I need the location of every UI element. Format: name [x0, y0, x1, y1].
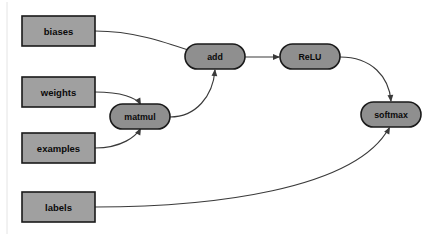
node-label: softmax [374, 110, 408, 120]
node-biases[interactable]: biases [22, 16, 95, 46]
edge-line [95, 92, 140, 104]
node-examples[interactable]: examples [22, 133, 95, 163]
arrowhead-icon [388, 95, 394, 102]
node-matmul[interactable]: matmul [110, 104, 170, 129]
diagram-canvas: biasesweightsexampleslabelsmatmuladdReLU… [0, 0, 439, 236]
edge-line [340, 57, 391, 101]
edge-relu-to-softmax [340, 57, 394, 102]
edge-labels-to-softmax [95, 126, 393, 207]
arrowhead-icon [212, 69, 218, 76]
edge-examples-to-matmul [95, 127, 144, 148]
node-label: biases [44, 26, 74, 37]
node-add[interactable]: add [185, 44, 245, 69]
node-label: add [207, 52, 223, 62]
node-labels[interactable]: labels [22, 192, 95, 222]
edge-add-to-relu [245, 54, 280, 60]
node-label: labels [45, 202, 72, 213]
edge-matmul-to-add [170, 69, 218, 117]
arrowhead-icon [273, 54, 280, 60]
dataflow-graph: biasesweightsexampleslabelsmatmuladdReLU… [0, 0, 439, 236]
node-label: matmul [124, 112, 155, 122]
node-relu[interactable]: ReLU [280, 44, 340, 69]
edge-line [95, 128, 389, 207]
node-label: weights [40, 87, 76, 98]
edge-line [95, 129, 140, 148]
node-softmax[interactable]: softmax [361, 102, 421, 127]
node-label: ReLU [299, 52, 322, 62]
edge-line [170, 70, 215, 117]
nodes-layer: biasesweightsexampleslabelsmatmuladdReLU… [22, 16, 421, 222]
node-label: examples [37, 143, 80, 154]
node-weights[interactable]: weights [22, 77, 95, 107]
